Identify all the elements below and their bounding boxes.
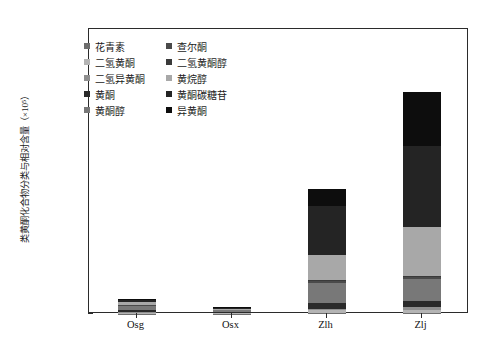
bar-segment [403, 279, 441, 300]
x-tick-mark [421, 313, 422, 318]
legend-label: 黄酮碳糖苷 [177, 87, 227, 102]
legend-item[interactable]: 查尔酮 [166, 38, 227, 54]
bar-osg [118, 299, 156, 314]
legend-swatch-icon [166, 75, 172, 81]
flavonoid-stacked-bar-chart: 类黄酮化合物分类与相对含量（×10⁵） 0.002.004.006.008.00… [0, 0, 481, 341]
bar-segment [403, 227, 441, 276]
legend-item[interactable]: 黄烷醇 [166, 70, 227, 86]
bars-container [89, 29, 469, 314]
legend-swatch-icon [84, 59, 90, 65]
legend-swatch-icon [84, 91, 90, 97]
legend-label: 查尔酮 [177, 39, 207, 54]
bar-osx [213, 307, 251, 314]
x-tick-label-osg: Osg [96, 319, 176, 330]
legend-swatch-icon [166, 91, 172, 97]
legend-label: 二氢异黄酮 [95, 71, 145, 86]
bar-segment [308, 283, 346, 303]
bar-segment [308, 255, 346, 280]
bar-segment [308, 313, 346, 314]
bar-segment [403, 92, 441, 146]
bar-segment [403, 301, 441, 308]
legend-label: 黄酮醇 [95, 103, 125, 118]
legend-label: 异黄酮 [177, 103, 207, 118]
legend-label: 黄酮 [95, 87, 115, 102]
bar-zlh [308, 189, 346, 314]
legend-swatch-icon [84, 107, 90, 113]
legend-item[interactable]: 黄酮 [84, 86, 145, 102]
x-tick-mark [136, 313, 137, 318]
bar-segment [308, 189, 346, 206]
legend-item[interactable]: 二氢黄酮 [84, 54, 145, 70]
legend-swatch-icon [84, 75, 90, 81]
bar-zlj [403, 92, 441, 314]
legend-swatch-icon [166, 107, 172, 113]
legend-item[interactable]: 黄酮醇 [84, 102, 145, 118]
legend-item[interactable]: 异黄酮 [166, 102, 227, 118]
x-tick-label-zlh: Zlh [286, 319, 366, 330]
legend-label: 二氢黄酮 [95, 55, 135, 70]
bar-segment [403, 313, 441, 314]
legend-item[interactable]: 二氢异黄酮 [84, 70, 145, 86]
legend-label: 黄烷醇 [177, 71, 207, 86]
x-tick-mark [231, 313, 232, 318]
bar-segment [308, 206, 346, 255]
legend-column-right: 查尔酮二氢黄酮醇黄烷醇黄酮碳糖苷异黄酮 [166, 38, 227, 118]
legend-item[interactable]: 黄酮碳糖苷 [166, 86, 227, 102]
legend-item[interactable]: 二氢黄酮醇 [166, 54, 227, 70]
x-tick-label-osx: Osx [191, 319, 271, 330]
bar-segment [403, 146, 441, 227]
plot-area [88, 28, 468, 313]
x-tick-mark [326, 313, 327, 318]
legend-label: 二氢黄酮醇 [177, 55, 227, 70]
legend-swatch-icon [166, 43, 172, 49]
legend-label: 花青素 [95, 39, 125, 54]
y-axis-title: 类黄酮化合物分类与相对含量（×10⁵） [17, 22, 31, 312]
legend-swatch-icon [166, 59, 172, 65]
legend-swatch-icon [84, 43, 90, 49]
legend-column-left: 花青素二氢黄酮二氢异黄酮黄酮黄酮醇 [84, 38, 145, 118]
legend-item[interactable]: 花青素 [84, 38, 145, 54]
x-tick-label-zlj: Zlj [381, 319, 461, 330]
